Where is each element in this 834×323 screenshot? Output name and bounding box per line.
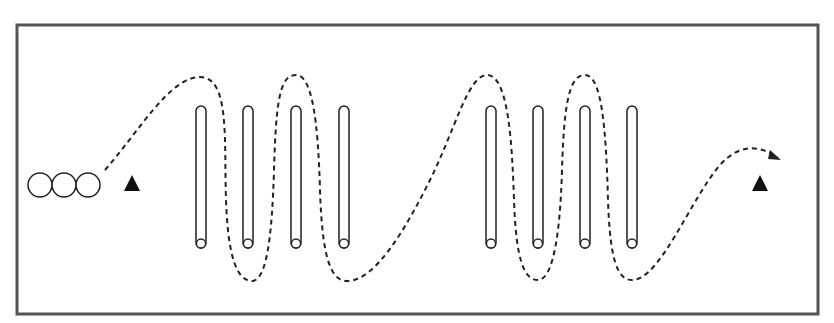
slalom-pole [291, 106, 301, 248]
slalom-pole [627, 106, 637, 248]
slalom-drill-diagram [0, 0, 834, 323]
slalom-pole [533, 106, 543, 248]
start-circles [28, 173, 100, 197]
slalom-pole [339, 106, 349, 248]
field-frame [17, 25, 818, 314]
start-circle [52, 173, 76, 197]
slalom-pole [196, 106, 206, 248]
slalom-pole [243, 106, 253, 248]
slalom-pole [580, 106, 590, 248]
start-circle [28, 173, 52, 197]
slalom-pole [486, 106, 496, 248]
start-circle [76, 173, 100, 197]
